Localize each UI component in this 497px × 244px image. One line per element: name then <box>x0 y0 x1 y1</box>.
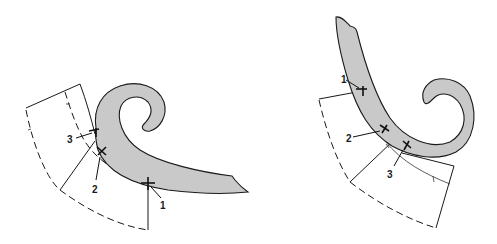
point-label-2: 2 <box>92 184 98 195</box>
french-curve-diagram-right: 1 2 3 <box>250 0 497 244</box>
french-curve-left <box>95 84 248 194</box>
point-label-3: 3 <box>387 169 393 180</box>
point-label-2: 2 <box>346 133 352 144</box>
point-label-3: 3 <box>67 134 73 145</box>
french-curve-diagram-left: 3 2 1 <box>0 0 250 244</box>
point-label-1: 1 <box>160 200 166 211</box>
figure-right: 1 2 3 <box>250 0 497 244</box>
figure-left: 3 2 1 <box>0 0 250 244</box>
point-label-1: 1 <box>341 74 347 85</box>
